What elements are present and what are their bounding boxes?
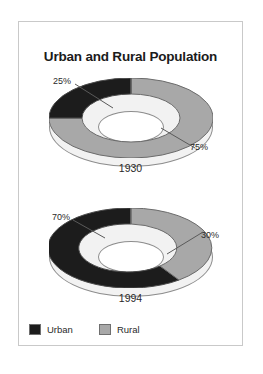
leader-line-urban-1994	[73, 220, 107, 240]
legend-swatch-rural	[99, 324, 111, 335]
chart-card: Urban and Rural Population 25% 75%	[18, 21, 243, 346]
legend-label-rural: Rural	[117, 324, 140, 335]
leader-line-urban-1930	[75, 84, 115, 110]
legend-label-urban: Urban	[47, 324, 73, 335]
page-title: Urban and Rural Population	[19, 49, 242, 64]
year-label-1930: 1930	[19, 162, 242, 174]
legend-item-rural: Rural	[99, 324, 140, 335]
donut-chart-1930: 25% 75% 1930	[19, 70, 242, 185]
donut-chart-1994: 70% 30% 1994	[19, 200, 242, 315]
leader-line-rural-1930	[161, 128, 197, 150]
leader-line-rural-1994	[167, 230, 205, 256]
year-label-1994: 1994	[19, 292, 242, 304]
legend: Urban Rural	[29, 324, 166, 335]
legend-item-urban: Urban	[29, 324, 73, 335]
legend-swatch-urban	[29, 324, 41, 335]
callout-urban-1994: 70%	[52, 212, 70, 222]
callout-urban-1930: 25%	[53, 76, 71, 86]
